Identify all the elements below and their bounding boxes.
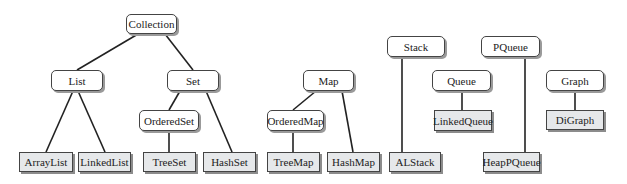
node-digraph: DiGraph <box>546 110 604 130</box>
edge-set-orderedset <box>169 91 180 110</box>
node-label: OrderedMap <box>267 115 323 127</box>
node-label: LinkedQueue <box>433 115 493 127</box>
node-label: Queue <box>447 75 476 87</box>
node-linkedlist: LinkedList <box>78 152 131 172</box>
node-heappqueue: HeapPQueue <box>483 152 540 172</box>
node-label: ArrayList <box>25 156 68 168</box>
node-label: HeapPQueue <box>482 156 540 168</box>
node-label: PQueue <box>493 41 528 53</box>
node-arraylist: ArrayList <box>19 152 73 172</box>
node-label: DiGraph <box>556 114 595 126</box>
edge-map-hashmap <box>342 91 353 152</box>
node-collection: Collection <box>126 14 177 34</box>
node-list: List <box>51 70 103 91</box>
node-queue: Queue <box>432 70 491 91</box>
node-label: OrderedSet <box>144 115 194 127</box>
edge-map-orderedmap <box>293 91 316 110</box>
node-label: TreeSet <box>153 156 187 168</box>
node-label: Set <box>186 75 200 87</box>
node-stack: Stack <box>387 36 445 57</box>
class-hierarchy-diagram: CollectionListSetOrderedSetArrayListLink… <box>0 0 627 184</box>
node-alstack: ALStack <box>389 152 441 172</box>
node-orderedset: OrderedSet <box>139 110 199 131</box>
node-label: HashSet <box>211 156 248 168</box>
edge-set-hashset <box>206 91 232 152</box>
node-label: List <box>68 75 85 87</box>
node-label: LinkedList <box>80 156 128 168</box>
edge-collection-list <box>77 34 138 70</box>
node-linkedqueue: LinkedQueue <box>434 110 492 131</box>
node-orderedmap: OrderedMap <box>267 110 324 131</box>
edge-list-linkedlist <box>78 91 105 152</box>
node-treeset: TreeSet <box>143 152 196 172</box>
node-map: Map <box>303 70 354 91</box>
node-hashset: HashSet <box>203 152 256 172</box>
node-label: Collection <box>129 18 175 30</box>
node-pqueue: PQueue <box>481 36 540 57</box>
node-label: Stack <box>404 41 428 53</box>
edge-collection-set <box>165 34 193 70</box>
node-treemap: TreeMap <box>267 152 320 172</box>
node-label: Graph <box>561 75 589 87</box>
node-label: HashMap <box>332 156 375 168</box>
node-set: Set <box>167 70 219 91</box>
node-label: Map <box>318 75 338 87</box>
node-graph: Graph <box>546 70 604 91</box>
node-label: TreeMap <box>274 156 314 168</box>
node-label: ALStack <box>395 156 434 168</box>
edge-list-arraylist <box>46 91 73 152</box>
node-hashmap: HashMap <box>327 152 380 172</box>
